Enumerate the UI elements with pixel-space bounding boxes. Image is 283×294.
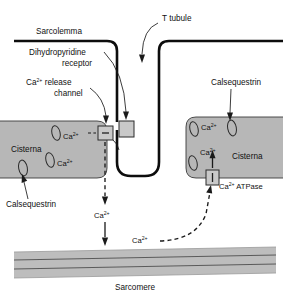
calsequestrin-right-label: Calsequestrin — [211, 78, 262, 87]
cisterna-left-label: Cisterna — [11, 145, 42, 154]
dihydropyridine-receptor-box — [119, 121, 134, 137]
sarcomere-label: Sarcomere — [115, 283, 155, 292]
ca-to-sarcomere-arrowhead — [102, 238, 108, 246]
t-tubule-leader-line — [142, 23, 158, 54]
ca-release-channel-label: Ca2+ release — [26, 77, 72, 87]
dihydropyridine-receptor-leader-line — [104, 52, 126, 112]
ion-label-ca: Ca2+ — [94, 210, 110, 220]
dihydropyridine-receptor-label-line2: receptor — [62, 59, 92, 68]
dihydropyridine-receptor-label: Dihydropyridine — [29, 48, 86, 57]
ion-label-ca: Ca2+ — [132, 235, 148, 245]
ca-reuptake-flow-arrowhead — [206, 185, 212, 194]
t-tubule-leader-arrowhead — [139, 55, 145, 63]
ca-release-channel-leader-line — [90, 88, 106, 116]
muscle-ec-coupling-diagram: Ca2+ Ca2+ Cisterna Ca2+ Ca2+ Cisterna — [0, 0, 283, 294]
ca-reuptake-flow-arrow — [160, 192, 210, 241]
t-tubule-label: T tubule — [162, 14, 192, 23]
sarcolemma-label: Sarcolemma — [36, 27, 82, 36]
calsequestrin-right-leader-line — [230, 89, 231, 113]
ca-release-channel-label-line2: channel — [54, 89, 83, 98]
calsequestrin-left-label: Calsequestrin — [6, 200, 57, 209]
ca-release-flow-arrowhead — [102, 197, 108, 205]
calsequestrin-left-leader-line — [24, 182, 28, 199]
dihydropyridine-receptor-leader-arrowhead — [123, 112, 129, 120]
cisterna-right-label: Cisterna — [232, 152, 263, 161]
ca-atpase-label: Ca2+ ATPase — [219, 181, 263, 191]
